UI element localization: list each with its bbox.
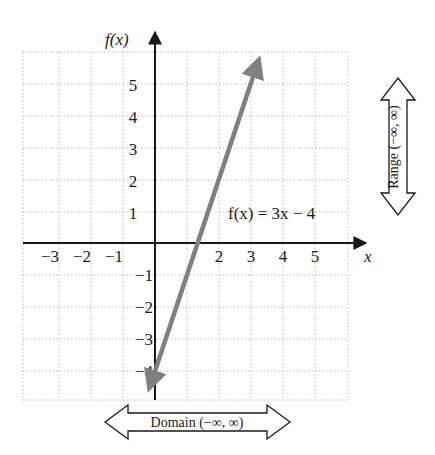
function-line	[150, 62, 258, 386]
domain-annotation: Domain (−∞, ∞)	[105, 405, 290, 439]
x-tick-label: 2	[215, 247, 224, 266]
x-tick-label: −1	[105, 247, 123, 266]
y-tick-label: 2	[129, 172, 138, 191]
y-tick-label: 5	[129, 76, 138, 95]
y-tick-labels: 5 4 3 2 1 −1 −2 −3 −4	[129, 76, 154, 381]
y-tick-label: −1	[135, 266, 153, 285]
x-axis-label: x	[363, 247, 372, 266]
y-tick-label: 1	[129, 204, 138, 223]
y-tick-label: 4	[129, 108, 138, 127]
equation-label: f(x) = 3x − 4	[228, 204, 316, 223]
domain-label: Domain (−∞, ∞)	[151, 415, 244, 431]
y-tick-label: 3	[129, 140, 138, 159]
y-tick-label: −3	[135, 330, 153, 349]
range-annotation: Range (−∞, ∞)	[381, 78, 415, 215]
range-label: Range (−∞, ∞)	[386, 105, 402, 189]
x-tick-label: 3	[247, 247, 256, 266]
grid-lines	[23, 52, 348, 400]
x-tick-label: −2	[73, 247, 91, 266]
x-tick-label: −3	[41, 247, 59, 266]
x-tick-label: 4	[279, 247, 288, 266]
x-tick-label: 5	[311, 247, 320, 266]
figure-page: f(x) x 5 4 3 2 1 −1 −2 −3 −4 −3 −2 −1 2 …	[0, 0, 435, 455]
x-tick-labels: −3 −2 −1 2 3 4 5	[41, 247, 319, 266]
y-tick-label: −2	[135, 298, 153, 317]
y-axis-label: f(x)	[105, 30, 129, 49]
function-graph: f(x) x 5 4 3 2 1 −1 −2 −3 −4 −3 −2 −1 2 …	[0, 0, 435, 455]
